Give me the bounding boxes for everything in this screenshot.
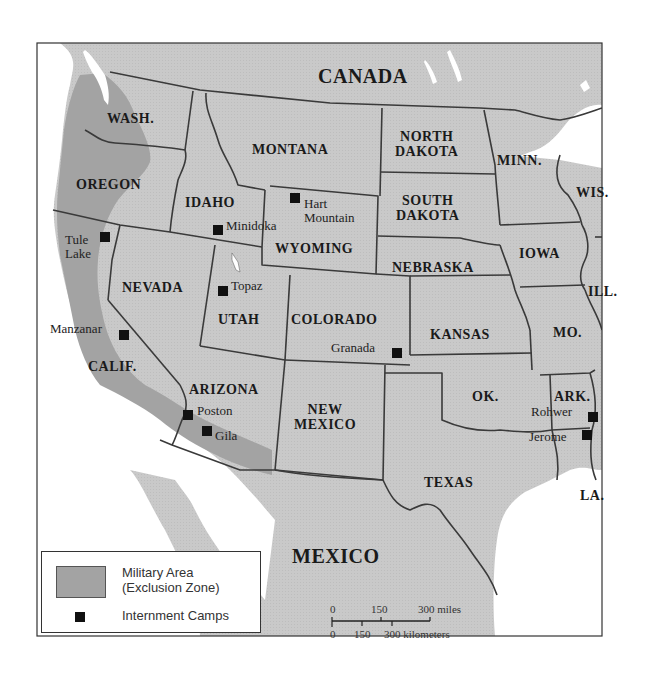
- camp-label-hart-mountain: Hart Mountain: [304, 197, 355, 224]
- camp-marker-granada: [392, 348, 402, 358]
- label-state-texas: TEXAS: [424, 476, 473, 491]
- label-state-colorado: COLORADO: [291, 313, 377, 328]
- label-state-nebraska: NEBRASKA: [392, 261, 474, 276]
- label-state-north-dakota: NORTH DAKOTA: [395, 130, 458, 159]
- label-state-ok: OK.: [472, 390, 499, 405]
- camp-label-rohwer: Rohwer: [531, 405, 572, 419]
- label-mexico: MEXICO: [292, 546, 379, 567]
- label-state-kansas: KANSAS: [430, 328, 490, 343]
- label-state-arizona: ARIZONA: [189, 383, 259, 398]
- camp-marker-poston: [183, 410, 193, 420]
- scale-miles-300: 300 miles: [418, 603, 461, 615]
- scale-miles-0: 0: [330, 603, 336, 615]
- camp-marker-jerome: [582, 430, 592, 440]
- label-state-oregon: OREGON: [76, 178, 141, 193]
- label-state-south-dakota: SOUTH DAKOTA: [396, 194, 459, 223]
- label-state-calif: CALIF.: [88, 360, 137, 375]
- label-state-wyoming: WYOMING: [275, 242, 353, 257]
- camp-label-poston: Poston: [197, 404, 232, 418]
- label-state-mo: MO.: [553, 326, 582, 341]
- camp-marker-topaz: [218, 286, 228, 296]
- scale-km-300: 300 kilometers: [384, 628, 450, 640]
- label-state-ill: ILL.: [588, 285, 618, 300]
- label-state-minn: MINN.: [497, 154, 542, 169]
- scale-miles-150: 150: [371, 603, 388, 615]
- camp-marker-manzanar: [119, 330, 129, 340]
- label-state-idaho: IDAHO: [185, 196, 235, 211]
- scale-km-0: 0: [330, 628, 336, 640]
- label-state-nevada: NEVADA: [122, 281, 183, 296]
- label-state-ark: ARK.: [554, 390, 591, 405]
- camp-marker-rohwer: [588, 412, 598, 422]
- camp-marker-icon: [75, 612, 85, 622]
- camp-label-topaz: Topaz: [231, 279, 263, 293]
- label-state-wis: WIS.: [576, 186, 609, 201]
- camp-label-minidoka: Minidoka: [226, 219, 277, 233]
- label-state-la: LA.: [580, 489, 604, 504]
- label-state-new-mexico: NEW MEXICO: [294, 403, 356, 432]
- label-canada: CANADA: [318, 66, 408, 87]
- camp-marker-gila: [202, 426, 212, 436]
- camp-marker-minidoka: [213, 225, 223, 235]
- legend-military-area-line2: (Exclusion Zone): [122, 581, 220, 595]
- map-legend: Military Area (Exclusion Zone) Internmen…: [41, 551, 261, 633]
- camp-label-jerome: Jerome: [529, 430, 567, 444]
- camp-label-granada: Granada: [331, 341, 375, 355]
- camp-label-manzanar: Manzanar: [50, 322, 102, 336]
- legend-internment-camps: Internment Camps: [122, 609, 229, 623]
- label-state-utah: UTAH: [218, 313, 259, 328]
- label-state-montana: MONTANA: [252, 143, 328, 158]
- camp-label-gila: Gila: [215, 429, 237, 443]
- scale-km-150: 150: [354, 628, 371, 640]
- camp-label-tule-lake: Tule Lake: [65, 233, 91, 260]
- legend-military-area-line1: Military Area: [122, 566, 194, 580]
- label-state-iowa: IOWA: [519, 247, 560, 262]
- label-state-wash: WASH.: [107, 112, 154, 127]
- camp-marker-tule-lake: [100, 232, 110, 242]
- camp-marker-hart-mountain: [290, 193, 300, 203]
- exclusion-zone-swatch: [56, 566, 106, 598]
